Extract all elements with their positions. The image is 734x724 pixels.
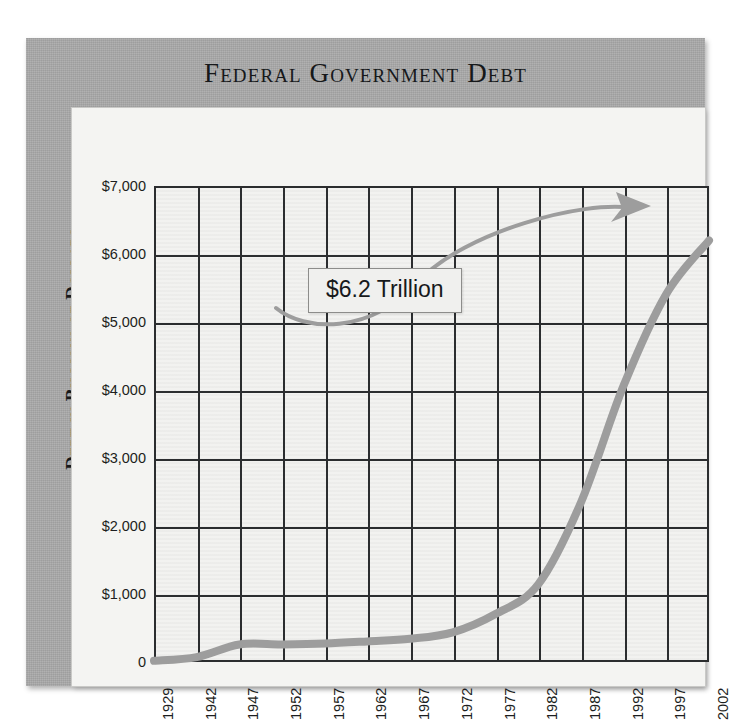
x-axis-tick-label: 1929 xyxy=(160,688,176,720)
y-axis-tick-label: $7,000 xyxy=(80,178,146,194)
x-axis-tick-label: 1982 xyxy=(544,688,560,720)
x-axis-tick-label: 1992 xyxy=(630,688,646,720)
data-series-layer xyxy=(154,186,709,662)
y-axis-tick-label: $5,000 xyxy=(80,314,146,330)
x-axis-tick-label: 2002 xyxy=(715,688,731,720)
chart-poster-panel: Federal Government Debt Debt in Billions… xyxy=(26,38,705,686)
x-axis-tick-label: 1962 xyxy=(373,688,389,720)
x-axis-tick-label: 1987 xyxy=(587,688,603,720)
y-axis-tick-label: $4,000 xyxy=(80,382,146,398)
y-axis-tick-label: $1,000 xyxy=(80,586,146,602)
x-axis-tick-label: 1947 xyxy=(245,688,261,720)
y-axis-tick-label: $6,000 xyxy=(80,246,146,262)
y-axis-tick-label: $3,000 xyxy=(80,450,146,466)
x-axis-tick-label: 1977 xyxy=(502,688,518,720)
page-title: Federal Government Debt xyxy=(26,58,705,89)
x-axis-tick-label: 1997 xyxy=(672,688,688,720)
x-axis-tick-label: 1972 xyxy=(459,688,475,720)
plot-card: 0$1,000$2,000$3,000$4,000$5,000$6,000$7,… xyxy=(72,108,705,686)
y-axis-tick-label: $2,000 xyxy=(80,518,146,534)
x-axis-tick-label: 1942 xyxy=(203,688,219,720)
x-axis-tick-label: 1967 xyxy=(416,688,432,720)
y-axis-tick-labels: 0$1,000$2,000$3,000$4,000$5,000$6,000$7,… xyxy=(72,186,146,662)
y-axis-tick-label: 0 xyxy=(80,654,146,670)
x-axis-tick-labels: 1929194219471952195719621967197219771982… xyxy=(154,668,709,724)
x-axis-tick-label: 1957 xyxy=(331,688,347,720)
annotation-callout: $6.2 Trillion xyxy=(308,268,462,313)
x-axis-tick-label: 1952 xyxy=(288,688,304,720)
